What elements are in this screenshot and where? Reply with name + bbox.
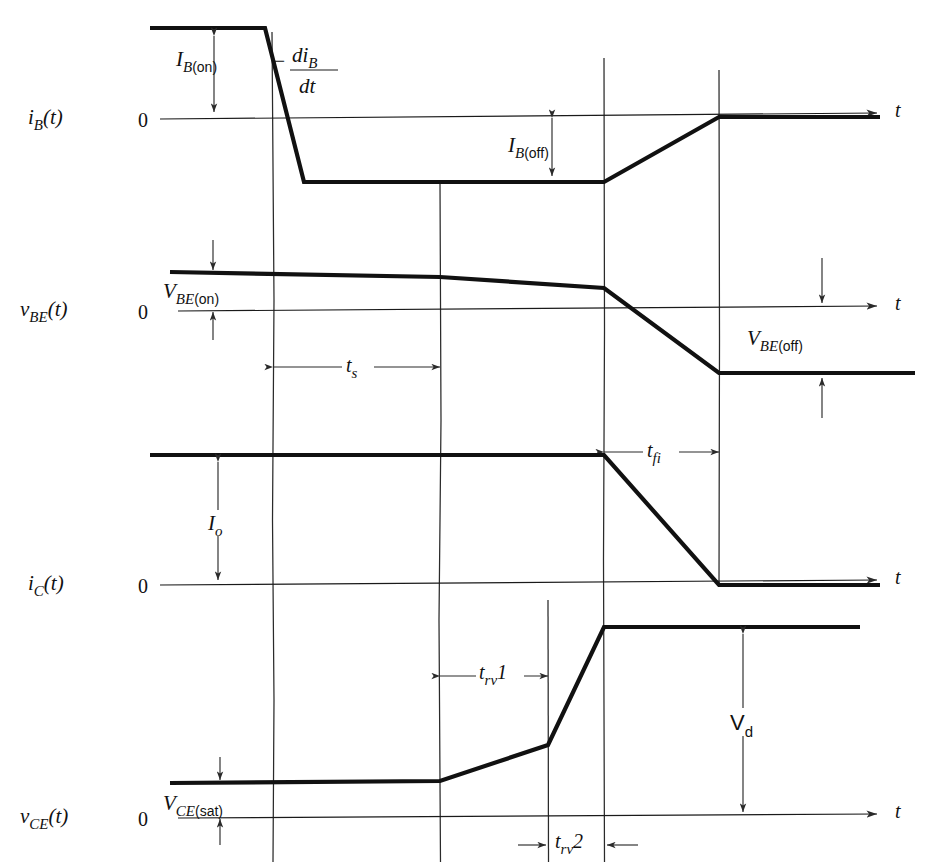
io-sub: o (215, 523, 223, 539)
vbe-off-tail: (off) (778, 338, 803, 354)
ts-label-group: ts (342, 354, 374, 381)
vce-time-axis (178, 814, 877, 818)
guide-line-5 (719, 70, 720, 585)
ic-axis-label-paren: (t) (44, 571, 64, 595)
svg-text:VBE(on): VBE(on) (163, 279, 219, 307)
vbe-off-label-group: VBE(off) (747, 326, 803, 354)
ib-on-sub: B (183, 59, 192, 75)
ib-axis-label-paren: (t) (43, 105, 63, 129)
vbe-axis-label-sub: BE (29, 309, 47, 325)
ib-t-label: t (895, 99, 901, 121)
guide-line-2 (439, 182, 441, 862)
guide-line-1 (272, 32, 274, 862)
tfi-label-group: tfi (643, 438, 679, 466)
dibdt-num-main: di (292, 43, 309, 67)
plot-collector-current (150, 455, 880, 585)
io-label-group: Io (204, 510, 234, 539)
vbe-axis-label-paren: (t) (48, 297, 68, 321)
svg-text:iB(t): iB(t) (28, 105, 63, 133)
svg-text:IB(off): IB(off) (507, 133, 549, 161)
vbe-on-tail: (on) (194, 291, 219, 307)
svg-text:VCE(sat): VCE(sat) (163, 791, 223, 819)
guide-line-4 (604, 58, 605, 862)
ib-off-tail: (off) (524, 145, 549, 161)
trv2-num: 2 (573, 830, 583, 852)
tfi-sub: fi (653, 450, 661, 466)
ic-axis-label-group: iC(t) (28, 571, 64, 599)
trv2-sub: rv (561, 841, 574, 857)
vbe-on-sub: BE (176, 291, 194, 307)
ib-axis-label-group: iB(t) (28, 105, 63, 133)
vce-t-label: t (895, 800, 901, 822)
trv2-label-group: trv2 (552, 827, 602, 857)
ib-axis-label-sub: B (34, 117, 43, 133)
svg-text:iC(t): iC(t) (28, 571, 64, 599)
ib-on-tail: (on) (192, 59, 217, 75)
vbe-t-label: t (895, 292, 901, 314)
vce-sat-label-group: VCE(sat) (163, 791, 223, 819)
vce-sat-sub: CE (176, 803, 195, 819)
trv1-sub: rv (485, 672, 498, 688)
ic-t-label: t (895, 566, 901, 588)
vbe-axis-label-group: vBE(t) (20, 297, 67, 325)
ib-zero-label: 0 (138, 109, 148, 131)
ts-sub: s (352, 365, 358, 381)
vd-label-group: Vd (726, 708, 762, 740)
dibdt-denominator: dt (299, 74, 317, 98)
ic-waveform (150, 455, 880, 585)
svg-text:IB(on): IB(on) (175, 47, 217, 75)
svg-text:vCE(t): vCE(t) (20, 804, 68, 832)
waveform-figure: iB(t) 0 t IB(on) − diB dt IB(off) vBE(t)… (0, 0, 938, 862)
vce-axis-label-paren: (t) (49, 804, 69, 828)
vbe-on-label-group: VBE(on) (163, 279, 219, 307)
vbe-off-sub: BE (760, 338, 778, 354)
vbe-waveform (170, 272, 915, 373)
plot-base-emitter-voltage (170, 240, 915, 452)
svg-text:VBE(off): VBE(off) (747, 326, 803, 354)
waveform-svg: iB(t) 0 t IB(on) − diB dt IB(off) vBE(t)… (0, 0, 938, 862)
vd-sub: d (745, 723, 753, 740)
vce-axis-label-group: vCE(t) (20, 804, 68, 832)
dibdt-num-sub: B (308, 55, 317, 71)
dibdt-minus: − (272, 49, 286, 73)
vce-sat-tail: (sat) (195, 803, 223, 819)
vce-axis-label-sub: CE (29, 816, 48, 832)
vd-main: V (730, 710, 745, 735)
ic-zero-label: 0 (138, 575, 148, 597)
ib-off-sub: B (515, 145, 524, 161)
ib-off-label-group: IB(off) (507, 133, 549, 161)
svg-text:vBE(t): vBE(t) (20, 297, 67, 325)
svg-text:diB: diB (292, 43, 318, 71)
trv1-num: 1 (497, 661, 507, 683)
vbe-zero-label: 0 (138, 301, 148, 323)
vce-zero-label: 0 (138, 808, 148, 830)
vbe-time-axis (178, 306, 877, 311)
ib-on-label-group: IB(on) (175, 47, 217, 75)
guide-line-3 (548, 600, 549, 862)
trv1-label-group: trv1 (476, 658, 524, 688)
